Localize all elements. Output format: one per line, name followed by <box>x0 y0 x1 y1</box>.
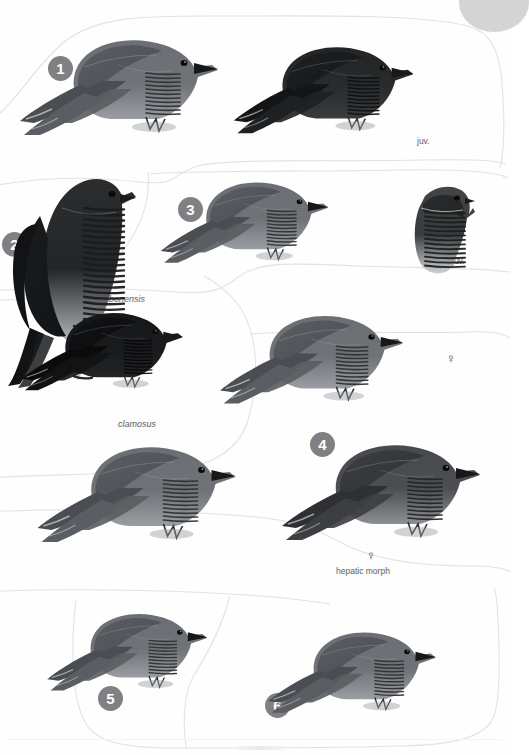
cuckoo-adult-grey-perched <box>18 8 233 168</box>
plate-label-symbol-3: ♀ <box>446 351 456 366</box>
footer-caption-remnant <box>238 746 284 750</box>
cuckoo-female-grey-perched <box>210 300 425 420</box>
cuckoo-clamosus-black-perched <box>20 282 195 422</box>
cuckoo-male-grey-perched <box>28 430 258 560</box>
footer-divider <box>8 739 503 740</box>
cuckoo-juvenile-dark-perched <box>232 18 427 163</box>
cuckoo-species-6-perched <box>250 618 465 728</box>
cuckoo-hepatic-morph-perched <box>280 418 495 568</box>
cuckoo-grey-perched-mid <box>150 168 350 278</box>
cuckoo-species-5-perched <box>30 600 235 705</box>
cuckoo-juvenile-barred-head-bust <box>405 178 477 278</box>
